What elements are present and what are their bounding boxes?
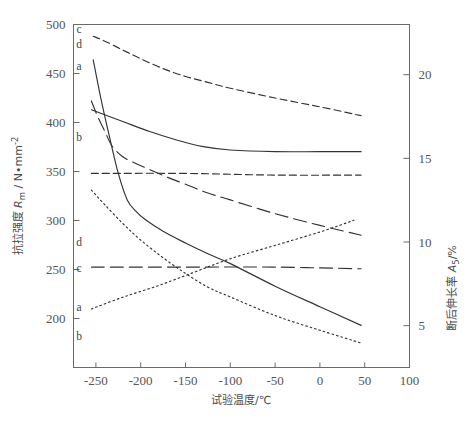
curve-group: [91, 36, 361, 343]
y-left-tick-label: 450: [46, 66, 66, 81]
y-right-tick-label: 20: [419, 67, 432, 82]
curve-c2: [91, 173, 361, 175]
x-axis-ticks: [96, 363, 410, 368]
curve-annotation-a-2: a: [76, 60, 81, 72]
curve-a: [91, 101, 361, 235]
curve-d: [93, 60, 361, 326]
curve-annotation-b-7: b: [76, 330, 82, 342]
y-axis-right-tick-labels: 5101520: [419, 67, 432, 333]
curve-b2: [91, 220, 354, 309]
curve-d2: [91, 110, 361, 152]
y-left-tick-label: 350: [46, 164, 66, 179]
x-tick-label: 100: [400, 373, 420, 388]
y-left-tick-label: 400: [46, 115, 66, 130]
y-left-cn: 抗拉强度: [11, 211, 25, 255]
y-axis-left-tick-labels: 200250300350400450500: [46, 17, 66, 326]
curve-annotation-b-3: b: [76, 131, 82, 143]
curve-c: [93, 36, 361, 115]
y-right-tick-label: 15: [419, 151, 432, 166]
curve-label-group: cdabdcab: [76, 23, 82, 342]
y-axis-left-title-text: 抗拉强度 Rm / N•mm-2: [10, 137, 27, 256]
x-axis-title: 试验温度/℃: [211, 393, 271, 407]
x-tick-label: -50: [266, 373, 283, 388]
y-right-tick-label: 10: [419, 235, 432, 250]
plot-frame: [74, 25, 410, 368]
curve-annotation-c-0: c: [76, 23, 81, 35]
y-left-unit: / N•mm: [12, 145, 25, 188]
x-tick-label: -150: [174, 373, 198, 388]
y-right-sym: A: [446, 265, 459, 274]
chart-figure: -250-200-150-100-50050100 20025030035040…: [0, 0, 473, 433]
y-left-tick-label: 250: [46, 262, 66, 277]
x-tick-label: 50: [358, 373, 371, 388]
x-tick-label: -250: [84, 373, 108, 388]
y-left-tick-label: 300: [46, 213, 66, 228]
y-left-sup: -2: [10, 137, 20, 145]
x-tick-label: -200: [129, 373, 153, 388]
y-left-sub: m: [17, 192, 27, 200]
y-axis-right-ticks: [404, 75, 410, 326]
curve-annotation-d-4: d: [76, 236, 82, 248]
y-right-cn: 断后伸长率: [445, 276, 459, 331]
y-left-sym: R: [12, 200, 25, 208]
y-left-tick-label: 200: [46, 311, 66, 326]
curve-annotation-a-6: a: [76, 301, 81, 313]
curve-a2: [91, 267, 361, 269]
y-axis-right-title-text: 断后伸长率 A5/%: [445, 245, 461, 331]
x-axis-tick-labels: -250-200-150-100-50050100: [84, 373, 419, 388]
y-left-tick-label: 500: [46, 17, 66, 32]
y-right-unit: /%: [446, 245, 459, 259]
curve-annotation-c-5: c: [76, 262, 81, 274]
curve-annotation-d-1: d: [76, 38, 82, 50]
y-axis-left-title: 抗拉强度 Rm / N•mm-2: [10, 137, 27, 256]
chart-canvas: -250-200-150-100-50050100 20025030035040…: [0, 0, 473, 433]
x-tick-label: 0: [317, 373, 324, 388]
y-right-tick-label: 5: [419, 318, 426, 333]
x-tick-label: -100: [218, 373, 242, 388]
y-axis-right-title: 断后伸长率 A5/%: [445, 245, 461, 331]
